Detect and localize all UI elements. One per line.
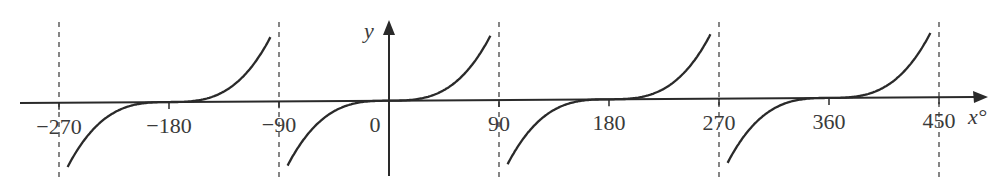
tangent-graph: −270−180−90090180270360450 y x° [0, 0, 1008, 195]
x-tick-label: 180 [593, 110, 626, 135]
y-axis-label: y [362, 18, 374, 43]
x-tick-label: 360 [813, 109, 846, 134]
x-tick-label: 0 [370, 112, 381, 137]
y-axis-arrow-icon [383, 20, 395, 35]
x-ticks: −270−180−90090180270360450 [36, 97, 955, 139]
x-tick-label: 90 [488, 111, 510, 136]
x-axis-arrow-icon [973, 91, 988, 103]
x-tick-label: −270 [36, 114, 81, 139]
x-tick-label: −180 [146, 113, 191, 138]
x-tick-label: 450 [923, 108, 956, 133]
x-axis-label: x° [967, 104, 987, 129]
x-tick-label: 270 [703, 110, 736, 135]
x-tick-label: −90 [262, 112, 296, 137]
